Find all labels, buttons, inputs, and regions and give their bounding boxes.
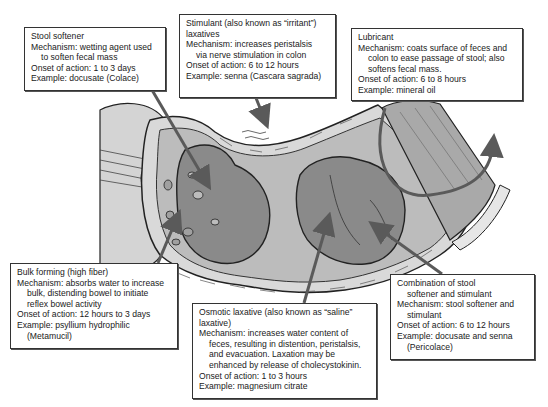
callout-line: laxative) bbox=[199, 318, 371, 329]
callout-line: colon to ease passage of stool; also bbox=[358, 53, 517, 64]
callout-line: bulk, distending bowel to initiate bbox=[17, 288, 172, 299]
callout-line: feces, resulting in distention, peristal… bbox=[199, 339, 371, 350]
callout-title: Combination of stool bbox=[397, 278, 529, 289]
callout-line: Example: senna (Cascara sagrada) bbox=[186, 71, 330, 82]
callout-osmotic: Osmotic laxative (also known as “saline”… bbox=[192, 303, 377, 399]
callout-line: Onset of action: 12 hours to 3 days bbox=[17, 309, 172, 320]
callout-line: and evacuation. Laxation may be bbox=[199, 349, 371, 360]
callout-bulk-forming: Bulk forming (high fiber) Mechanism: abs… bbox=[10, 263, 178, 349]
callout-line: (Metamucil) bbox=[17, 331, 172, 342]
callout-line: via nerve stimulation in colon bbox=[186, 50, 330, 61]
callout-line: Example: mineral oil bbox=[358, 85, 517, 96]
callout-line: softener and stimulant bbox=[397, 289, 529, 300]
callout-line: to soften fecal mass bbox=[31, 52, 160, 63]
callout-line: (Pericolace) bbox=[397, 342, 529, 353]
callout-line: stimulant bbox=[397, 310, 529, 321]
callout-title: Stool softener bbox=[31, 31, 160, 42]
callout-title: Osmotic laxative (also known as “saline” bbox=[199, 307, 371, 318]
callout-line: softens fecal mass. bbox=[358, 64, 517, 75]
callout-line: Mechanism: increases water content of bbox=[199, 328, 371, 339]
callout-line: laxatives bbox=[186, 29, 330, 40]
callout-line: Onset of action: 6 to 8 hours bbox=[358, 74, 517, 85]
callout-line: Example: magnesium citrate bbox=[199, 381, 371, 392]
callout-line: Onset of action: 1 to 3 hours bbox=[199, 371, 371, 382]
callout-line: Onset of action: 6 to 12 hours bbox=[397, 320, 529, 331]
callout-line: Example: docusate and senna bbox=[397, 331, 529, 342]
callout-stimulant: Stimulant (also known as “irritant”) lax… bbox=[179, 14, 336, 98]
callout-combination: Combination of stool softener and stimul… bbox=[390, 274, 535, 360]
callout-stool-softener: Stool softener Mechanism: wetting agent … bbox=[24, 27, 166, 91]
callout-line: Mechanism: stool softener and bbox=[397, 299, 529, 310]
callout-line: Mechanism: coats surface of feces and bbox=[358, 43, 517, 54]
callout-line: Mechanism: absorbs water to increase bbox=[17, 278, 172, 289]
callout-title: Bulk forming (high fiber) bbox=[17, 267, 172, 278]
callout-line: Onset of action: 1 to 3 days bbox=[31, 63, 160, 74]
callout-line: Mechanism: increases peristalsis bbox=[186, 39, 330, 50]
callout-line: Example: docusate (Colace) bbox=[31, 73, 160, 84]
callout-lubricant: Lubricant Mechanism: coats surface of fe… bbox=[351, 28, 523, 101]
callout-line: enhanced by release of cholecystokinin. bbox=[199, 360, 371, 371]
peristalsis-lines bbox=[242, 131, 269, 140]
callout-line: Example: psyllium hydrophilic bbox=[17, 320, 172, 331]
callout-line: Mechanism: wetting agent used bbox=[31, 42, 160, 53]
callout-line: reflex bowel activity bbox=[17, 299, 172, 310]
callout-line: Onset of action: 6 to 12 hours bbox=[186, 60, 330, 71]
callout-title: Stimulant (also known as “irritant”) bbox=[186, 18, 330, 29]
callout-title: Lubricant bbox=[358, 32, 517, 43]
